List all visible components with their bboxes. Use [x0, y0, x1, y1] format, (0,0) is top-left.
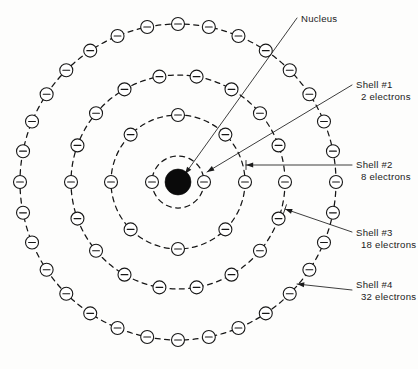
leader-stroke-shell-3 — [285, 209, 352, 232]
electron-shell-3 — [118, 268, 131, 281]
electron-shell-2 — [172, 109, 185, 122]
electron-shell-4 — [326, 206, 339, 219]
electron-shell-4 — [326, 145, 339, 158]
electron-shell-3 — [71, 212, 84, 225]
diagram-canvas: NucleusShell #12 electronsShell #28 elec… — [0, 0, 418, 369]
electron-shell-2 — [105, 176, 118, 189]
electron-shell-2 — [124, 223, 137, 236]
electron-shell-3 — [153, 281, 166, 294]
electron-shell-3 — [65, 176, 78, 189]
electron-shell-4 — [317, 236, 330, 249]
electron-shell-4 — [111, 30, 124, 43]
electron-shell-1 — [198, 176, 211, 189]
electron-shell-4 — [111, 321, 124, 334]
electron-shell-4 — [17, 206, 30, 219]
electron-shell-4 — [202, 330, 215, 343]
electron-shell-3 — [272, 139, 285, 152]
electron-shell-3 — [225, 83, 238, 96]
electron-shell-4 — [259, 44, 272, 57]
electron-shell-2 — [239, 176, 252, 189]
electron-shell-2 — [219, 128, 232, 141]
electron-shell-4 — [141, 330, 154, 343]
electron-shell-4 — [303, 88, 316, 101]
shell-label-name-3: Shell #3 — [356, 227, 393, 238]
leader-stroke-shell-4 — [297, 284, 352, 290]
leader-arrowhead-shell-3 — [285, 209, 293, 214]
electron-shell-4 — [259, 307, 272, 320]
electron-shell-3 — [279, 176, 292, 189]
electron-shell-3 — [90, 107, 103, 120]
electron-shell-3 — [272, 212, 285, 225]
electron-shell-3 — [253, 244, 266, 257]
shell-label-electron-count-4: 32 electrons — [361, 291, 416, 302]
shell-label-electron-count-2: 8 electrons — [361, 171, 411, 182]
atomic-shell-diagram-figure: NucleusShell #12 electronsShell #28 elec… — [0, 0, 418, 369]
electron-shell-4 — [330, 176, 343, 189]
nucleus-core — [165, 169, 191, 195]
electron-shell-3 — [118, 83, 131, 96]
shell-label-name-2: Shell #2 — [356, 159, 393, 170]
electron-shell-4 — [26, 115, 39, 128]
electron-shell-4 — [26, 236, 39, 249]
labels-group: NucleusShell #12 electronsShell #28 elec… — [301, 13, 416, 302]
electron-shell-3 — [71, 139, 84, 152]
electron-shell-4 — [141, 21, 154, 34]
electron-shell-4 — [60, 287, 73, 300]
electron-shell-4 — [60, 64, 73, 77]
electron-shell-2 — [219, 223, 232, 236]
electron-shell-3 — [190, 281, 203, 294]
electron-shell-4 — [14, 176, 27, 189]
electron-shell-4 — [40, 263, 53, 276]
electron-shell-4 — [283, 287, 296, 300]
shell-label-name-4: Shell #4 — [356, 279, 393, 290]
electron-shell-4 — [40, 88, 53, 101]
electron-shell-4 — [17, 145, 30, 158]
leader-line-shell-3 — [284, 205, 352, 232]
electron-shell-4 — [232, 30, 245, 43]
electron-shell-3 — [190, 70, 203, 83]
nucleus-label: Nucleus — [301, 13, 337, 24]
leader-line-shell-2 — [246, 161, 352, 170]
shell-label-electron-count-1: 2 electrons — [361, 91, 411, 102]
electron-shell-4 — [283, 64, 296, 77]
leader-line-shell-4 — [297, 282, 352, 290]
electron-shell-3 — [225, 268, 238, 281]
nucleus-group — [165, 169, 191, 195]
electron-shell-4 — [84, 307, 97, 320]
electron-shell-4 — [172, 18, 185, 31]
electron-shell-4 — [172, 334, 185, 347]
electron-shell-2 — [124, 128, 137, 141]
shell-label-name-1: Shell #1 — [356, 79, 393, 90]
leader-arrowhead-shell-4 — [297, 282, 304, 287]
electron-shell-1 — [146, 176, 159, 189]
electron-shell-2 — [172, 243, 185, 256]
leader-arrowhead-shell-2 — [246, 162, 253, 167]
shell-label-electron-count-3: 18 electrons — [361, 239, 416, 250]
leader-arrowhead-shell-1 — [207, 166, 215, 172]
electron-shell-4 — [317, 115, 330, 128]
electron-shell-4 — [84, 44, 97, 57]
electron-shell-3 — [153, 70, 166, 83]
electron-shell-3 — [253, 107, 266, 120]
electron-shell-3 — [90, 244, 103, 257]
electron-shell-4 — [202, 21, 215, 34]
electron-shell-4 — [303, 263, 316, 276]
electron-shell-4 — [232, 321, 245, 334]
